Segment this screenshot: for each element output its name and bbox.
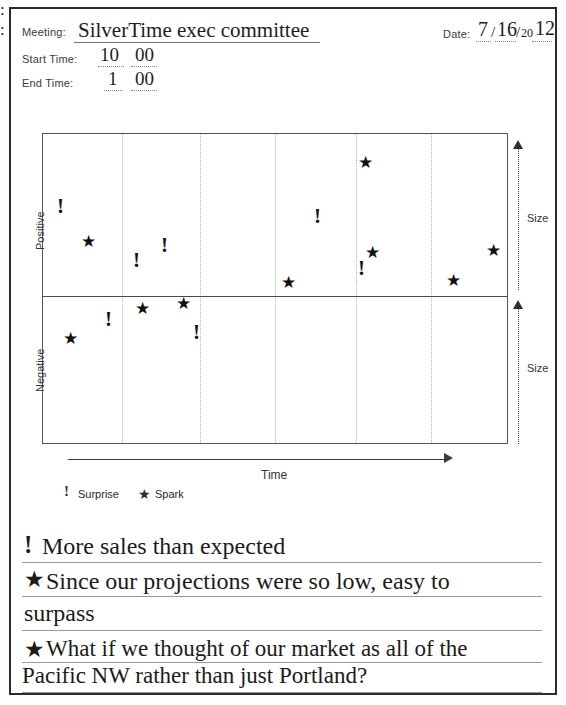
worksheet-page: Meeting: SilverTime exec committee Start… — [0, 0, 566, 705]
axis-label-time: Time — [261, 468, 287, 482]
date-century-prefix: 20 — [521, 26, 533, 41]
note-marker-surprise: ! — [24, 531, 32, 559]
date-month[interactable]: 7 — [478, 18, 488, 41]
gridline-5 — [431, 134, 432, 443]
size-arrowhead-negative — [513, 300, 523, 309]
axis-label-positive: Positive — [34, 211, 46, 250]
spark-marker[interactable]: ★ — [63, 330, 78, 347]
surprise-marker[interactable]: ! — [193, 322, 200, 343]
start-hours-rule — [98, 66, 124, 67]
note-text[interactable]: More sales than expected — [42, 533, 285, 560]
start-time-minutes[interactable]: 00 — [135, 44, 154, 66]
legend-spark-icon: ★ — [138, 486, 151, 502]
axis-label-negative: Negative — [34, 349, 46, 392]
size-label-positive: Size — [527, 212, 548, 224]
date-label: Date: — [443, 28, 470, 40]
legend-surprise-label: Surprise — [78, 488, 119, 500]
date-day-rule — [495, 41, 516, 42]
spark-marker[interactable]: ★ — [81, 233, 96, 250]
note-rule — [22, 596, 542, 597]
note-marker-spark: ★ — [24, 566, 45, 593]
spark-marker[interactable]: ★ — [486, 242, 501, 259]
start-time-label: Start Time: — [22, 53, 77, 65]
surprise-marker[interactable]: ! — [133, 250, 140, 271]
zero-axis-line — [43, 296, 507, 297]
date-year[interactable]: 12 — [535, 17, 555, 40]
date-month-rule — [476, 41, 491, 42]
spark-marker[interactable]: ★ — [365, 244, 380, 261]
meeting-field-rule — [74, 42, 320, 43]
note-rule — [22, 630, 542, 631]
date-year-rule — [532, 41, 552, 42]
meeting-label: Meeting: — [22, 26, 66, 38]
gridline-1 — [122, 134, 123, 443]
spark-marker[interactable]: ★ — [176, 295, 191, 312]
spark-marker[interactable]: ★ — [358, 154, 373, 171]
note-rule — [22, 562, 542, 563]
date-slash-1: / — [491, 24, 495, 41]
size-axis-positive — [518, 148, 519, 290]
start-minutes-rule — [131, 66, 157, 67]
surprise-marker[interactable]: ! — [314, 206, 321, 227]
note-rule — [22, 692, 542, 693]
surprise-marker[interactable]: ! — [358, 258, 365, 279]
size-axis-negative — [518, 308, 519, 444]
gridline-4 — [356, 134, 357, 443]
gridline-2 — [200, 134, 201, 443]
end-time-minutes[interactable]: 00 — [135, 68, 154, 90]
size-label-negative: Size — [527, 362, 548, 374]
time-axis-line — [68, 459, 450, 460]
date-slash-2: / — [516, 24, 520, 41]
legend-surprise-icon: ! — [64, 483, 69, 500]
end-hours-rule — [104, 90, 123, 91]
end-minutes-rule — [131, 90, 157, 91]
note-marker-spark: ★ — [24, 636, 45, 663]
end-time-label: End Time: — [22, 77, 73, 89]
note-text-continuation[interactable]: Pacific NW rather than just Portland? — [22, 663, 367, 689]
surprise-marker[interactable]: ! — [161, 235, 168, 256]
end-time-hours[interactable]: 1 — [108, 68, 118, 90]
spark-marker[interactable]: ★ — [281, 274, 296, 291]
note-text[interactable]: What if we thought of our market as all … — [46, 636, 468, 662]
note-text[interactable]: Since our projections were so low, easy … — [46, 568, 450, 595]
meeting-value[interactable]: SilverTime exec committee — [78, 18, 309, 43]
surprise-marker[interactable]: ! — [57, 196, 64, 217]
date-day[interactable]: 16 — [497, 18, 517, 41]
size-arrowhead-positive — [513, 140, 523, 149]
surprise-marker[interactable]: ! — [105, 309, 112, 330]
spark-marker[interactable]: ★ — [446, 272, 461, 289]
time-arrowhead-icon — [444, 453, 453, 463]
start-time-hours[interactable]: 10 — [100, 44, 119, 66]
gridline-3 — [275, 134, 276, 443]
sparkline-plot-area: ! ! ! ! ! ! ! ★ ★ ★ ★ ★ ★ ★ ★ ★ — [42, 133, 508, 444]
legend-spark-label: Spark — [155, 488, 184, 500]
spark-marker[interactable]: ★ — [135, 300, 150, 317]
note-text-continuation[interactable]: surpass — [24, 600, 95, 627]
